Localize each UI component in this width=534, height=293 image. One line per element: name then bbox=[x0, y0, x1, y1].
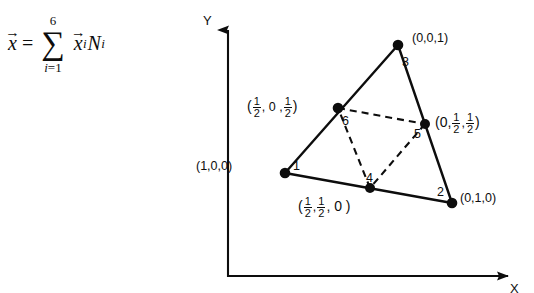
node-number-3: 3 bbox=[402, 56, 409, 69]
sigma-icon: ∑ bbox=[41, 28, 65, 60]
fraction-numerator: 1 bbox=[284, 96, 292, 107]
node-marker-3 bbox=[393, 40, 404, 51]
node-5-comma: , bbox=[461, 116, 464, 130]
fraction-denominator: 2 bbox=[466, 124, 474, 135]
fraction-numerator: 1 bbox=[253, 96, 261, 107]
node-marker-5 bbox=[420, 119, 430, 129]
fraction-one-half: 12 bbox=[317, 196, 325, 219]
shape-function-subscript: i bbox=[101, 36, 105, 52]
lhs-vector-x: → x bbox=[8, 32, 17, 55]
node-marker-6 bbox=[333, 103, 344, 114]
node-1-coordinate-label: (1,0,0) bbox=[196, 160, 232, 173]
fraction-one-half: 12 bbox=[253, 96, 261, 119]
node-4-paren-open: ( bbox=[298, 198, 303, 214]
fraction-numerator: 1 bbox=[466, 112, 474, 123]
summation-upper-limit: 6 bbox=[50, 13, 57, 29]
fraction-denominator: 2 bbox=[253, 108, 261, 119]
fraction-denominator: 2 bbox=[284, 108, 292, 119]
summation-lower-value: 1 bbox=[55, 60, 62, 75]
node-number-5: 5 bbox=[414, 128, 421, 141]
y-axis-label: Y bbox=[203, 13, 212, 28]
shape-function-N: N bbox=[88, 32, 101, 55]
node-number-4: 4 bbox=[366, 172, 373, 185]
vector-arrow-icon: → bbox=[71, 25, 85, 39]
node-5-paren-open: (0, bbox=[435, 114, 451, 130]
fraction-one-half: 12 bbox=[466, 112, 474, 135]
summation-lower-equals: = bbox=[48, 60, 55, 75]
equals-sign: = bbox=[22, 32, 33, 55]
figure-root: → x = 6 ∑ i=1 → x iNi bbox=[0, 0, 534, 293]
node-2-coordinate-label: (0,1,0) bbox=[460, 192, 496, 205]
node-4-tail: , 0 ) bbox=[326, 198, 350, 214]
fraction-numerator: 1 bbox=[452, 112, 460, 123]
summation-lower-limit: i=1 bbox=[44, 60, 61, 76]
x-axis-label: X bbox=[510, 281, 519, 293]
vector-arrow-icon: → bbox=[5, 25, 19, 39]
fraction-one-half: 12 bbox=[284, 96, 292, 119]
node-5-coordinate-label: (0,12,12) bbox=[435, 112, 480, 135]
node-marker-1 bbox=[280, 168, 291, 179]
node-number-6: 6 bbox=[342, 115, 349, 128]
fraction-numerator: 1 bbox=[317, 196, 325, 207]
midside-dashed-triangle bbox=[338, 108, 425, 188]
node-4-coordinate-label: (12,12, 0 ) bbox=[298, 196, 351, 219]
node-3-coordinate-label: (0,0,1) bbox=[412, 32, 448, 45]
node-number-2: 2 bbox=[437, 186, 444, 199]
rhs-vector-x-i: → x bbox=[74, 32, 83, 55]
interpolation-equation: → x = 6 ∑ i=1 → x iNi bbox=[8, 6, 188, 68]
dashed-edge-6-5 bbox=[338, 108, 425, 124]
equation-row: → x = 6 ∑ i=1 → x iNi bbox=[8, 28, 105, 60]
diagram-canvas bbox=[190, 0, 534, 293]
fraction-one-half: 12 bbox=[452, 112, 460, 135]
fraction-denominator: 2 bbox=[317, 208, 325, 219]
node-6-coordinate-label: (12, 0 ,12) bbox=[247, 96, 297, 119]
node-number-1: 1 bbox=[293, 160, 300, 173]
node-6-paren-open: ( bbox=[247, 98, 252, 114]
fraction-numerator: 1 bbox=[304, 196, 312, 207]
node-6-tail: ) bbox=[293, 98, 298, 114]
node-6-middle-zero: , 0 , bbox=[262, 100, 283, 114]
fraction-denominator: 2 bbox=[452, 124, 460, 135]
fraction-denominator: 2 bbox=[304, 208, 312, 219]
node-marker-2 bbox=[447, 198, 458, 209]
node-5-tail: ) bbox=[475, 114, 480, 130]
element-diagram: Y X 1 2 3 4 5 6 (1,0,0) (0,1,0) (0,0,1) … bbox=[190, 0, 534, 293]
fraction-one-half: 12 bbox=[304, 196, 312, 219]
summation-operator: 6 ∑ i=1 bbox=[41, 28, 65, 60]
node-4-comma: , bbox=[313, 200, 316, 214]
